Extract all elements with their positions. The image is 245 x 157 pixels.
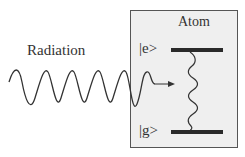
excited-state-label: |e> — [139, 40, 157, 57]
radiation-atom-diagram: Radiation Atom |e> |g> — [0, 0, 245, 157]
radiation-label: Radiation — [27, 42, 85, 59]
excited-level-bar — [171, 48, 223, 52]
ground-state-label: |g> — [139, 122, 158, 139]
ground-level-bar — [171, 130, 223, 134]
atom-label: Atom — [178, 14, 210, 30]
